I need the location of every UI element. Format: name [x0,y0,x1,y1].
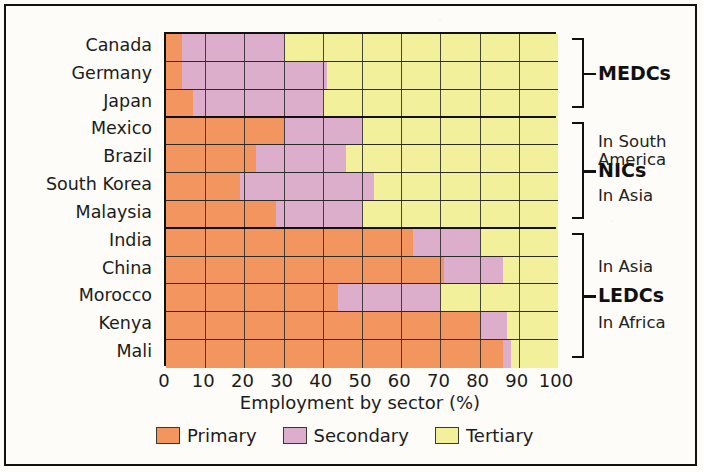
gridline-vertical [284,118,285,146]
legend-swatch-secondary [283,427,307,444]
bar-segment-primary [166,62,182,90]
gridline-vertical [362,118,363,146]
gridline-vertical [401,90,402,118]
bar-segment-secondary [182,62,327,90]
gridline-vertical [244,257,245,285]
gridline-vertical [205,257,206,285]
x-tick-90: 90 [505,370,528,391]
y-label-canada: Canada [85,37,152,55]
gridline-vertical [519,62,520,90]
bar-segment-primary [166,201,276,229]
gridline-vertical [205,145,206,173]
gridline-vertical [440,312,441,340]
gridline-vertical [244,229,245,257]
gridline-vertical [519,145,520,173]
gridline-vertical [480,90,481,118]
bar-segment-secondary [480,312,507,340]
group-note-ledcs-0: In Asia [598,258,653,276]
bracket-stem-medcs [584,73,596,76]
x-tick-10: 10 [192,370,215,391]
gridline-vertical [480,34,481,62]
group-note-nics-1: America [598,151,666,169]
legend-swatch-primary [156,427,180,444]
gridline-vertical [323,118,324,146]
gridline-vertical [362,34,363,62]
gridline-vertical [362,62,363,90]
gridline-vertical [480,229,481,257]
bar-segment-primary [166,284,338,312]
gridline-vertical [244,284,245,312]
gridline-vertical [401,284,402,312]
gridline-vertical [401,229,402,257]
gridline-vertical [519,284,520,312]
gridline-vertical [440,62,441,90]
gridline-vertical [401,312,402,340]
y-label-mali: Mali [116,343,152,361]
gridline-vertical [519,118,520,146]
gridline-vertical [519,201,520,229]
x-axis-title: Employment by sector (%) [164,392,556,413]
gridline-vertical [480,145,481,173]
y-axis-country-labels: CanadaGermanyJapanMexicoBrazilSouth Kore… [6,32,158,366]
gridline-vertical [323,34,324,62]
group-note-nics-2: In Asia [598,187,653,205]
bar-group-medcs [164,32,556,116]
gridline-vertical [480,257,481,285]
y-label-mexico: Mexico [91,120,152,138]
bracket-medcs [572,38,584,108]
bracket-ledcs [572,233,584,358]
gridline-vertical [205,201,206,229]
chart-legend: PrimarySecondaryTertiary [156,420,576,450]
gridline-vertical [284,284,285,312]
gridline-vertical [323,257,324,285]
gridline-vertical [440,284,441,312]
group-note-nics-0: In South [598,133,667,151]
bar-segment-secondary [338,284,440,312]
gridline-vertical [440,118,441,146]
bar-segment-secondary [256,145,346,173]
gridline-vertical [519,312,520,340]
bar-segment-secondary [413,229,480,257]
gridline-vertical [440,201,441,229]
bar-segment-tertiary [284,34,558,62]
gridline-vertical [284,312,285,340]
gridline-vertical [244,34,245,62]
x-tick-0: 0 [158,370,169,391]
gridline-vertical [401,257,402,285]
gridline-vertical [244,145,245,173]
gridline-vertical [480,312,481,340]
bar-segment-tertiary [362,201,558,229]
y-label-south-korea: South Korea [46,176,152,194]
gridline-vertical [284,201,285,229]
gridline-vertical [205,312,206,340]
x-tick-40: 40 [309,370,332,391]
gridline-vertical [323,229,324,257]
bar-segment-secondary [444,257,503,285]
group-note-ledcs-1: In Africa [598,314,666,332]
gridline-vertical [323,312,324,340]
bar-segment-primary [166,118,284,146]
gridline-vertical [205,173,206,201]
gridline-vertical [205,284,206,312]
gridline-vertical [205,229,206,257]
legend-swatch-tertiary [435,427,459,444]
bar-segment-secondary [240,173,373,201]
chart-frame: CanadaGermanyJapanMexicoBrazilSouth Kore… [4,4,697,466]
bar-segment-primary [166,145,256,173]
gridline-vertical [519,34,520,62]
gridline-vertical [440,340,441,368]
bar-segment-secondary [182,34,284,62]
y-label-brazil: Brazil [103,148,152,166]
gridline-vertical [284,145,285,173]
gridline-vertical [244,118,245,146]
bar-segment-tertiary [346,145,558,173]
legend-item-secondary: Secondary [283,425,409,446]
gridline-vertical [323,145,324,173]
x-tick-70: 70 [427,370,450,391]
gridline-vertical [362,173,363,201]
bar-segment-primary [166,173,240,201]
bar-segment-tertiary [503,257,558,285]
bar-segment-tertiary [440,284,558,312]
legend-label-tertiary: Tertiary [466,425,534,446]
bar-segment-secondary [503,340,511,368]
